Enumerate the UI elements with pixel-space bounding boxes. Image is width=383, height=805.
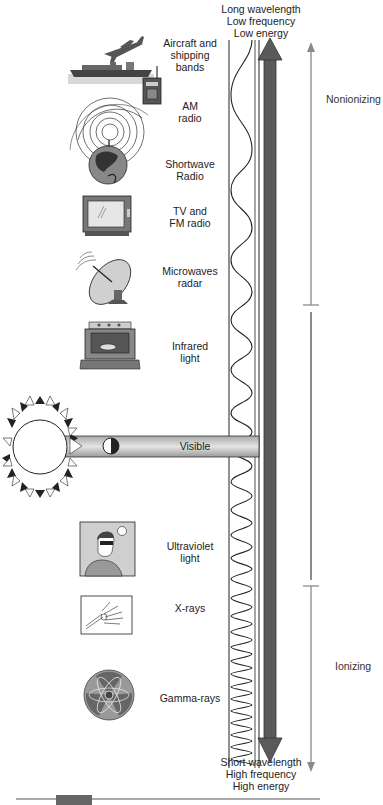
label-am-radio: AM radio [160, 100, 220, 124]
radiation-symbol-icon [82, 670, 135, 720]
airplane-ship-icon [68, 36, 154, 84]
label-visible: Visible [165, 440, 225, 452]
label-x-rays: X-rays [160, 602, 220, 614]
label-microwaves-radar: Microwaves radar [152, 265, 228, 289]
satellite-dish-icon [76, 252, 139, 312]
label-ionizing: Ionizing [335, 660, 371, 672]
bottom-rule [16, 795, 320, 805]
energy-arrow [258, 38, 282, 762]
category-arrows [303, 42, 319, 772]
label-ultraviolet-light: Ultraviolet light [155, 540, 225, 564]
label-gamma-rays: Gamma-rays [152, 692, 228, 704]
spectrum-bottom-label: Short wavelength High frequency High ene… [196, 756, 326, 792]
label-nonionizing: Nonionizing [326, 93, 381, 105]
label-aircraft-shipping: Aircraft and shipping bands [150, 37, 230, 73]
person-sunglasses-icon [80, 522, 135, 576]
sun-icon [2, 396, 82, 498]
label-tv-fm-radio: TV and FM radio [155, 205, 225, 229]
label-shortwave-radio: Shortwave Radio [155, 158, 225, 182]
footer-line-energy: High energy [196, 780, 326, 792]
footer-line-frequency: High frequency [196, 768, 326, 780]
footer-line-wavelength: Short wavelength [196, 756, 326, 768]
label-infrared-light: Infrared light [155, 340, 225, 364]
visible-beam [62, 436, 259, 457]
television-icon [83, 196, 131, 236]
globe-broadcast-icon [70, 98, 148, 184]
wave-curve [231, 40, 252, 765]
hand-xray-icon [81, 596, 132, 634]
wave-tube [229, 40, 259, 768]
oven-icon [80, 322, 140, 369]
